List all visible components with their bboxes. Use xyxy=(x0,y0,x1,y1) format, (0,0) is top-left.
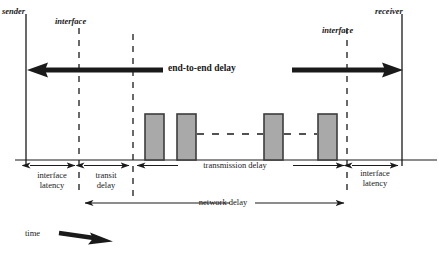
transit-delay-label-line2: delay xyxy=(76,181,136,190)
time-axis-label: time xyxy=(25,229,40,238)
transmission-delay-label: transmission delay xyxy=(180,161,290,170)
sender-label: sender xyxy=(2,7,25,16)
diagram-canvas xyxy=(0,0,439,253)
network-delay-label: network delay xyxy=(193,198,253,207)
packet-box-2 xyxy=(177,114,196,160)
transit-delay-label-line1: transit xyxy=(76,171,136,180)
interface-right-label: interface xyxy=(322,26,353,35)
interface-latency-right-label-line2: latency xyxy=(349,179,401,188)
end-to-end-delay-left-arrow xyxy=(27,63,163,78)
end-to-end-delay-label: end-to-end delay xyxy=(168,64,236,74)
packet-box-1 xyxy=(145,114,164,160)
time-axis-arrow xyxy=(59,233,113,245)
packet-box-3 xyxy=(264,114,283,160)
delay-diagram: sender receiver interface interface end-… xyxy=(0,0,439,253)
interface-left-label: interface xyxy=(55,17,86,26)
interface-latency-right-label-line1: interface xyxy=(349,169,401,178)
receiver-label: receiver xyxy=(375,7,403,16)
packet-box-4 xyxy=(318,114,337,160)
